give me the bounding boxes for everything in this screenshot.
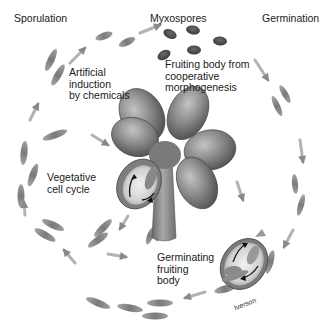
cycle-arrow-icon bbox=[30, 102, 39, 120]
bacterial-cell bbox=[277, 84, 292, 104]
bacterial-cell bbox=[117, 35, 136, 49]
bacterial-cell bbox=[117, 302, 144, 313]
cycle-arrow-icon bbox=[119, 216, 128, 231]
bacterial-cell bbox=[94, 30, 113, 43]
cycle-arrow-icon bbox=[63, 248, 75, 263]
label-sporulation: Sporulation bbox=[14, 13, 67, 25]
bacterial-cell bbox=[85, 295, 112, 311]
myxospore bbox=[213, 36, 228, 46]
bacterial-cell bbox=[26, 163, 41, 188]
myxospores-group bbox=[156, 24, 228, 62]
cycle-arrow-icon bbox=[255, 60, 269, 82]
bacterial-cell bbox=[295, 194, 306, 217]
cycle-arrow-icon bbox=[70, 47, 86, 63]
cycle-arrow-icon bbox=[108, 252, 128, 260]
myxospore bbox=[187, 46, 201, 55]
myxospore bbox=[185, 24, 200, 35]
label-myxospores: Myxospores bbox=[150, 13, 207, 25]
bacterial-cell bbox=[147, 300, 173, 307]
cycle-arrow-icon bbox=[92, 135, 110, 146]
cycle-arrow-icon bbox=[140, 24, 162, 33]
cycle-arrow-icon bbox=[183, 292, 205, 300]
bacterial-cell bbox=[43, 48, 59, 73]
label-fruiting-body: Fruiting body from cooperative morphogen… bbox=[165, 59, 250, 94]
cycle-arrow-icon bbox=[283, 230, 293, 249]
cycle-arrow-icon bbox=[237, 182, 245, 202]
label-artificial-induction: Artificial induction by chemicals bbox=[69, 67, 130, 102]
bacterial-cell bbox=[42, 127, 69, 142]
myxobacteria-life-cycle-diagram: Sporulation Myxospores Germination Artif… bbox=[0, 0, 336, 329]
label-germination: Germination bbox=[262, 13, 319, 25]
bacterial-cell bbox=[142, 313, 168, 320]
label-germinating-fruiting-body: Germinating fruiting body bbox=[157, 252, 214, 287]
bacterial-cell bbox=[291, 174, 299, 194]
myxospore bbox=[162, 27, 178, 41]
bacterial-cell bbox=[19, 141, 28, 166]
label-vegetative-cell-cycle: Vegetative cell cycle bbox=[47, 172, 96, 195]
bacterial-cell bbox=[270, 95, 285, 117]
cycle-arrow-icon bbox=[298, 140, 306, 164]
bacterial-cell bbox=[49, 63, 67, 87]
